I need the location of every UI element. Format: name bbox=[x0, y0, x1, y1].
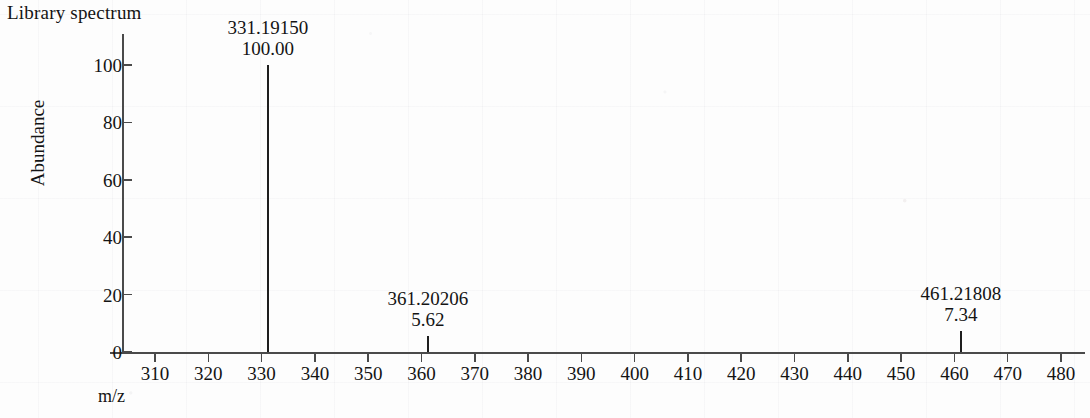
x-tick-mark bbox=[314, 353, 316, 362]
x-tick-mark bbox=[367, 353, 369, 362]
x-tick-label: 470 bbox=[993, 363, 1022, 385]
x-tick-mark bbox=[954, 353, 956, 362]
x-tick-label: 450 bbox=[887, 363, 916, 385]
peak-line bbox=[960, 331, 962, 352]
peak-label: 361.202065.62 bbox=[388, 288, 469, 331]
y-tick-mark bbox=[123, 122, 132, 124]
x-tick-mark bbox=[847, 353, 849, 362]
peak-mz-value: 461.21808 bbox=[921, 283, 1002, 304]
x-tick-label: 430 bbox=[780, 363, 809, 385]
x-tick-mark bbox=[687, 353, 689, 362]
x-tick-mark bbox=[740, 353, 742, 362]
y-tick-label: 0 bbox=[62, 343, 122, 362]
x-tick-mark bbox=[208, 353, 210, 362]
y-tick-label: 40 bbox=[62, 228, 122, 247]
x-tick-mark bbox=[1060, 353, 1062, 362]
x-tick-mark bbox=[900, 353, 902, 362]
spectrum-figure: Library spectrum Abundance m/z 020406080… bbox=[0, 0, 1090, 418]
x-tick-mark bbox=[154, 353, 156, 362]
x-tick-label: 330 bbox=[247, 363, 276, 385]
x-tick-label: 310 bbox=[141, 363, 170, 385]
y-tick-mark bbox=[123, 179, 132, 181]
x-axis-title: m/z bbox=[98, 386, 125, 407]
x-tick-mark bbox=[581, 353, 583, 362]
x-tick-label: 480 bbox=[1047, 363, 1076, 385]
x-tick-label: 410 bbox=[674, 363, 703, 385]
y-axis-line bbox=[122, 34, 124, 352]
x-axis-line bbox=[110, 352, 1085, 354]
y-tick-mark bbox=[123, 64, 132, 66]
peak-line bbox=[267, 65, 269, 352]
peak-intensity-value: 7.34 bbox=[921, 304, 1002, 325]
y-tick-label: 100 bbox=[62, 56, 122, 75]
peak-line bbox=[427, 336, 429, 352]
y-axis-title: Abundance bbox=[27, 83, 49, 203]
x-tick-label: 350 bbox=[354, 363, 383, 385]
x-tick-mark bbox=[794, 353, 796, 362]
x-tick-mark bbox=[474, 353, 476, 362]
y-tick-mark bbox=[123, 236, 132, 238]
scan-speckle bbox=[0, 0, 1090, 418]
x-tick-label: 400 bbox=[620, 363, 649, 385]
x-tick-label: 440 bbox=[834, 363, 863, 385]
peak-label: 461.218087.34 bbox=[921, 283, 1002, 326]
x-tick-label: 420 bbox=[727, 363, 756, 385]
y-tick-label: 80 bbox=[62, 113, 122, 132]
figure-title: Library spectrum bbox=[7, 2, 142, 24]
peak-mz-value: 361.20206 bbox=[388, 288, 469, 309]
x-tick-label: 360 bbox=[407, 363, 436, 385]
x-tick-mark bbox=[261, 353, 263, 362]
x-tick-mark bbox=[421, 353, 423, 362]
x-tick-label: 390 bbox=[567, 363, 596, 385]
x-tick-label: 460 bbox=[940, 363, 969, 385]
x-tick-label: 380 bbox=[514, 363, 543, 385]
scan-texture bbox=[0, 0, 1090, 418]
peak-intensity-value: 100.00 bbox=[228, 38, 309, 59]
y-tick-mark bbox=[123, 294, 132, 296]
peak-intensity-value: 5.62 bbox=[388, 309, 469, 330]
peak-mz-value: 331.19150 bbox=[228, 17, 309, 38]
y-tick-label: 20 bbox=[62, 285, 122, 304]
x-tick-mark bbox=[527, 353, 529, 362]
x-tick-mark bbox=[1007, 353, 1009, 362]
peak-label: 331.19150100.00 bbox=[228, 17, 309, 60]
y-tick-label: 60 bbox=[62, 170, 122, 189]
x-tick-label: 320 bbox=[194, 363, 223, 385]
x-tick-mark bbox=[634, 353, 636, 362]
x-tick-label: 370 bbox=[461, 363, 490, 385]
x-tick-label: 340 bbox=[301, 363, 330, 385]
y-tick-mark bbox=[123, 351, 132, 353]
